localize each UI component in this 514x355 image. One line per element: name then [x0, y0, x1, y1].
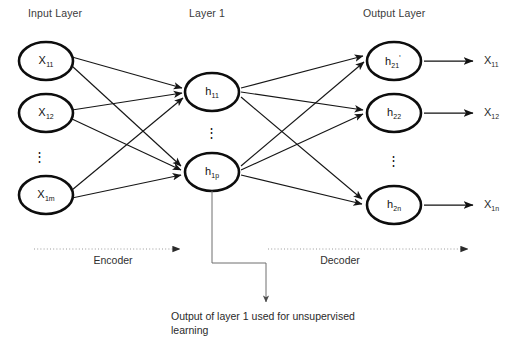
output-value-sub-0: 11: [491, 61, 498, 68]
prime-mark: ': [399, 53, 401, 63]
output-value-sub-1: 12: [491, 113, 499, 120]
callout-leader-line: [212, 191, 266, 302]
node-sub-output-0: 21: [391, 62, 399, 69]
node-sub-input-2: 1m: [45, 195, 55, 202]
node-label-input-1: X12: [38, 106, 53, 120]
node-label-output-0: h21': [385, 53, 401, 70]
output-value-0: X11: [484, 54, 499, 68]
encoder-label: Encoder: [93, 254, 132, 266]
network-graphics: [0, 0, 514, 355]
node-label-output-1: h22: [387, 106, 401, 120]
node-sub-input-0: 11: [46, 61, 53, 68]
node-label-output-2: h2n: [387, 198, 401, 212]
node-label-input-2: X1m: [37, 188, 54, 202]
node-sub-input-1: 12: [46, 113, 54, 120]
node-label-input-0: X11: [39, 54, 54, 68]
output-value-2: X1n: [484, 198, 499, 212]
ellipsis-hidden: ⋮: [205, 125, 219, 140]
ellipsis-output: ⋮: [387, 153, 401, 168]
node-label-hidden-0: h11: [205, 85, 219, 99]
node-label-hidden-1: h1p: [205, 165, 219, 179]
node-sub-hidden-1: 1p: [211, 172, 219, 179]
autoencoder-diagram: Input Layer Layer 1 Output Layer: [0, 0, 514, 355]
ellipsis-input: ⋮: [33, 149, 47, 164]
node-sub-output-2: 2n: [393, 205, 401, 212]
node-sub-hidden-0: 11: [212, 92, 219, 99]
output-value-sub-2: 1n: [491, 205, 499, 212]
node-sub-output-1: 22: [393, 113, 401, 120]
callout-caption: Output of layer 1 used for unsupervised …: [171, 309, 386, 337]
decoder-label: Decoder: [320, 254, 360, 266]
output-value-1: X12: [484, 106, 499, 120]
